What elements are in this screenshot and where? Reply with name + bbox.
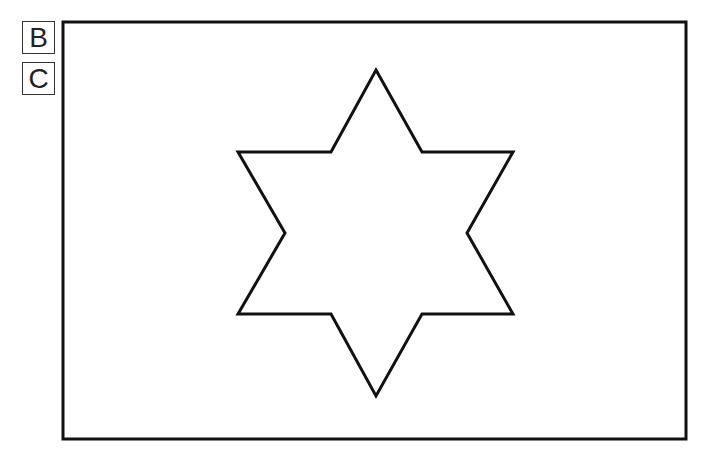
- diagram-canvas: [0, 0, 727, 456]
- star-shape: [238, 70, 513, 396]
